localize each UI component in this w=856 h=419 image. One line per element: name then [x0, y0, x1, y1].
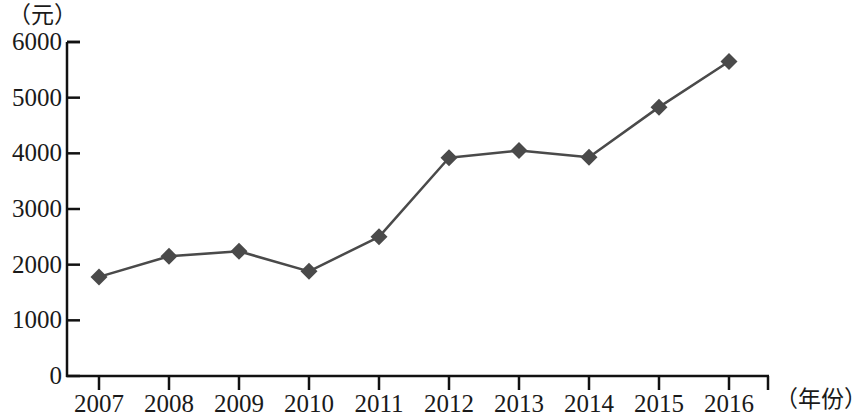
- y-axis-ticks: [67, 42, 80, 376]
- x-axis-ticks: [99, 376, 729, 390]
- data-point-markers: [91, 53, 738, 285]
- data-point-marker: [721, 53, 738, 70]
- data-point-marker: [231, 243, 248, 260]
- data-point-marker: [581, 149, 598, 166]
- data-line: [99, 61, 729, 276]
- data-point-marker: [301, 263, 318, 280]
- data-point-marker: [161, 248, 178, 265]
- data-point-marker: [91, 268, 108, 285]
- data-point-marker: [511, 142, 528, 159]
- axes: [66, 42, 769, 390]
- data-point-marker: [651, 99, 668, 116]
